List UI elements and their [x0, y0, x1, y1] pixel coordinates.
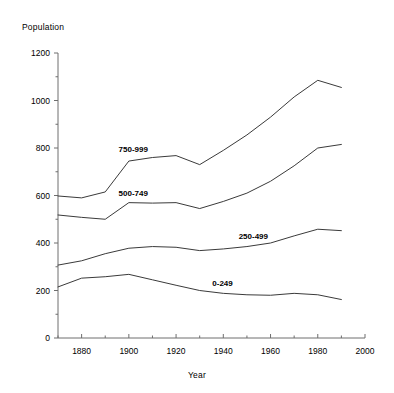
- series-label-0-249: 0-249: [211, 279, 233, 288]
- x-tick-label: 2000: [345, 346, 385, 356]
- series-group: [58, 80, 341, 299]
- y-tick-label: 1000: [18, 96, 50, 106]
- x-tick-label: 1940: [203, 346, 243, 356]
- series-label-250-499: 250-499: [238, 232, 269, 241]
- x-tick-label: 1900: [109, 346, 149, 356]
- x-tick-label: 1920: [156, 346, 196, 356]
- y-tick-label: 800: [18, 143, 50, 153]
- y-tick-label: 200: [18, 286, 50, 296]
- series-line-750-999: [58, 80, 341, 198]
- y-tick-label: 1200: [18, 48, 50, 58]
- x-tick-label: 1960: [251, 346, 291, 356]
- y-tick-label: 0: [18, 333, 50, 343]
- population-line-chart: Population Year 020040060080010001200 18…: [0, 0, 394, 393]
- series-line-0-249: [58, 274, 341, 299]
- series-label-500-749: 500-749: [118, 189, 149, 198]
- series-line-500-749: [58, 144, 341, 219]
- x-tick-label: 1880: [62, 346, 102, 356]
- chart-canvas: [0, 0, 394, 393]
- y-tick-label: 400: [18, 238, 50, 248]
- series-line-250-499: [58, 229, 341, 265]
- y-tick-label: 600: [18, 191, 50, 201]
- x-tick-label: 1980: [298, 346, 338, 356]
- series-label-750-999: 750-999: [118, 145, 149, 154]
